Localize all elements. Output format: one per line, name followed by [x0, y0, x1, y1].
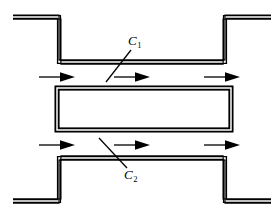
center-block-outer-stroke	[57, 88, 231, 130]
center-block-outline-inner	[59, 90, 229, 128]
upper-flow-row	[39, 72, 240, 82]
center-block-outline-outer	[55, 86, 233, 132]
center-block	[55, 86, 233, 132]
upper-wall-outer-stroke	[13, 17, 271, 62]
flow-arrow	[204, 140, 240, 150]
center-block-inner-highlight	[57, 88, 231, 130]
lower-wall-top-edge	[13, 156, 271, 199]
contour-label-c2-subscript: 2	[133, 174, 137, 184]
upper-wall-top-edge	[13, 15, 271, 60]
contour-label-c1-subscript: 1	[137, 40, 141, 50]
lower-flow-row	[39, 140, 240, 150]
lower-wall-bottom-edge	[13, 160, 271, 203]
upper-wall-inner-highlight	[13, 17, 271, 62]
contour-label-c2: C2	[124, 168, 137, 181]
contour-label-c2-base: C	[124, 167, 133, 182]
lower-wall-outer-stroke	[13, 158, 271, 201]
contour-label-c1-base: C	[128, 33, 137, 48]
upper-wall-bottom-edge	[13, 19, 271, 64]
flow-arrow	[204, 72, 240, 82]
contour-label-c1: C1	[128, 34, 141, 47]
c2-leader-line	[99, 138, 127, 168]
figure-canvas	[0, 0, 280, 218]
flow-arrow	[114, 140, 150, 150]
upper-channel-wall	[13, 15, 271, 64]
flow-arrow	[114, 72, 150, 82]
flow-arrow	[39, 72, 75, 82]
technical-figure: C1 C2	[0, 0, 280, 218]
lower-channel-wall	[13, 156, 271, 203]
lower-wall-inner-highlight	[13, 158, 271, 201]
flow-arrow	[39, 140, 75, 150]
